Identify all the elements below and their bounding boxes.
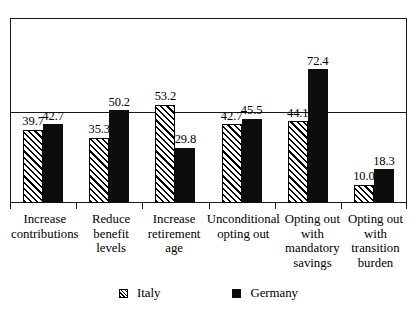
x-axis-tick-5 [341,203,342,209]
x-axis-tick-0 [10,203,11,209]
x-axis-category-labels: IncreasecontributionsReducebenefitlevels… [10,212,407,270]
bar-italy-3 [155,105,175,203]
x-axis-label-line: Reduce [81,212,142,227]
chart-legend: Italy Germany [0,287,417,300]
solid-square-icon [232,289,241,298]
x-axis-label-line: Unconditional [207,212,280,227]
bar-value-label-italy-3: 53.2 [149,90,181,103]
legend-entry-italy: Italy [119,287,160,300]
x-axis-label-line: savings [282,256,343,271]
bar-germany-1 [43,124,63,203]
bar-germany-3 [175,148,195,203]
x-axis-label-6: Opting outwithtransitionburden [344,212,407,270]
bar-chart-figure: 39.742.735.350.253.229.842.745.544.172.4… [0,0,417,322]
x-axis-label-4: Unconditionalopting out [206,212,281,270]
legend-label-germany: Germany [250,287,298,300]
x-axis-label-line: with [345,227,406,242]
bar-italy-6 [354,185,374,204]
bars-layer: 39.742.735.350.253.229.842.745.544.172.4… [10,18,407,203]
x-axis-label-1: Increasecontributions [10,212,80,270]
x-axis-ticks [10,203,407,210]
bar-germany-5 [308,69,328,203]
hatched-square-icon [119,289,128,298]
bar-germany-2 [109,110,129,203]
bar-germany-6 [374,169,394,203]
x-axis-label-line: benefit [81,227,142,242]
x-axis-label-line: burden [345,256,406,271]
bar-value-label-germany-3: 29.8 [169,133,201,146]
bar-value-label-germany-1: 42.7 [37,110,69,123]
x-axis-tick-3 [209,203,210,209]
bar-italy-2 [89,138,109,203]
bar-italy-4 [222,124,242,203]
x-axis-label-line: retirement [144,227,205,242]
x-axis-label-line: Increase [11,212,79,227]
x-axis-label-line: with [282,227,343,242]
x-axis-label-5: Opting outwithmandatorysavings [281,212,344,270]
x-axis-tick-2 [142,203,143,209]
bar-germany-4 [242,119,262,203]
x-axis-label-line: age [144,241,205,256]
legend-label-italy: Italy [137,287,160,300]
x-axis-label-line: mandatory [282,241,343,256]
x-axis-tick-1 [76,203,77,209]
bar-italy-1 [23,130,43,203]
x-axis-label-line: Increase [144,212,205,227]
x-axis-label-line: transition [345,241,406,256]
x-axis-tick-6 [406,203,407,209]
x-axis-tick-4 [275,203,276,209]
x-axis-label-line: levels [81,241,142,256]
bar-value-label-germany-4: 45.5 [236,104,268,117]
x-axis-label-3: Increaseretirementage [143,212,206,270]
bar-value-label-germany-5: 72.4 [302,55,334,68]
bar-italy-5 [288,121,308,203]
x-axis-label-line: opting out [207,227,280,242]
bar-value-label-germany-6: 18.3 [368,155,400,168]
bar-value-label-germany-2: 50.2 [103,96,135,109]
x-axis-label-line: Opting out [345,212,406,227]
x-axis-label-2: Reducebenefitlevels [80,212,143,270]
legend-entry-germany: Germany [232,287,298,300]
x-axis-label-line: Opting out [282,212,343,227]
x-axis-label-line: contributions [11,227,79,242]
